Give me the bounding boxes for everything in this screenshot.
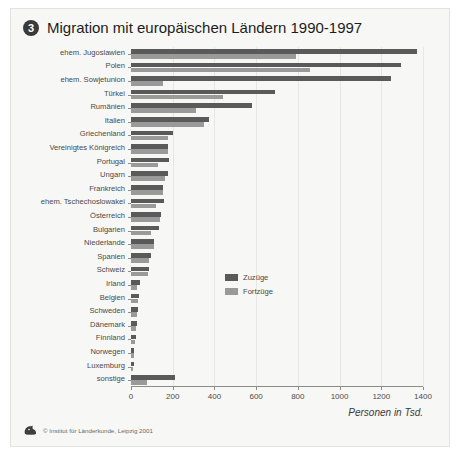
x-axis-title: Personen in Tsd. — [348, 407, 423, 418]
bar-zu — [131, 212, 161, 217]
category-label: Rumänien — [90, 103, 125, 112]
bar-row: Griechenland — [131, 129, 423, 143]
x-tick-mark — [173, 387, 174, 390]
chart-figure: 3 Migration mit europäischen Ländern 199… — [10, 8, 450, 447]
category-label: Ungarn — [100, 171, 125, 180]
category-label: Schweiz — [97, 266, 125, 275]
bar-fort — [131, 340, 135, 345]
x-tick-mark — [423, 387, 424, 390]
x-axis-line — [131, 386, 423, 387]
bar-fort — [131, 68, 310, 73]
bar-row: Spanien — [131, 251, 423, 265]
bar-zu — [131, 117, 209, 122]
bar-row: Portugal — [131, 156, 423, 170]
bar-row: Bulgarien — [131, 224, 423, 238]
x-tick-mark — [256, 387, 257, 390]
bar-fort — [131, 285, 137, 290]
bar-fort — [131, 272, 148, 277]
bar-zu — [131, 144, 168, 149]
bar-row: ehem. Jugoslawien — [131, 47, 423, 61]
category-label: Italien — [105, 117, 125, 126]
category-label: Niederlande — [84, 239, 125, 248]
bar-fort — [131, 163, 158, 168]
category-label: ehem. Sowjetunion — [60, 76, 125, 85]
chart-legend: Zuzüge Fortzüge — [225, 273, 273, 301]
category-label: sonstige — [97, 375, 125, 384]
x-tick-label: 0 — [129, 392, 133, 401]
bar-zu — [131, 103, 252, 108]
bar-row: Niederlande — [131, 237, 423, 251]
x-tick-mark — [381, 387, 382, 390]
bar-zu — [131, 362, 134, 367]
bar-zu — [131, 49, 417, 54]
x-tick-mark — [340, 387, 341, 390]
institute-logo-icon — [23, 424, 38, 437]
bar-zu — [131, 239, 154, 244]
bar-row: Italien — [131, 115, 423, 129]
bar-zu — [131, 375, 175, 380]
bar-zu — [131, 90, 275, 95]
bar-row: Finnland — [131, 333, 423, 347]
copyright-text: © Institut für Länderkunde, Leipzig 2001 — [43, 427, 153, 434]
bar-row: sonstige — [131, 373, 423, 387]
bar-fort — [131, 149, 168, 154]
category-label: Österreich — [90, 212, 125, 221]
category-label: Dänemark — [90, 321, 125, 330]
figure-number-badge: 3 — [23, 20, 39, 36]
bar-zu — [131, 76, 391, 81]
x-tick-label: 600 — [249, 392, 262, 401]
category-label: Türkei — [104, 90, 125, 99]
bar-row: Österreich — [131, 210, 423, 224]
category-label: Portugal — [97, 158, 125, 167]
bar-row: Belgien — [131, 292, 423, 306]
category-label: Bulgarien — [93, 226, 125, 235]
bar-row: Luxemburg — [131, 360, 423, 374]
x-tick-label: 1000 — [331, 392, 349, 401]
bar-zu — [131, 307, 138, 312]
category-label: Griechenland — [80, 130, 125, 139]
bar-zu — [131, 131, 173, 136]
x-tick-mark — [298, 387, 299, 390]
bar-fort — [131, 380, 147, 385]
bar-zu — [131, 294, 139, 299]
category-label: Irland — [106, 280, 125, 289]
bar-row: Norwegen — [131, 346, 423, 360]
legend-label-zuzuege: Zuzüge — [243, 273, 268, 282]
legend-swatch-fortzuege — [225, 288, 238, 295]
category-label: Luxemburg — [87, 362, 125, 371]
legend-label-fortzuege: Fortzüge — [243, 287, 273, 296]
bar-fort — [131, 231, 151, 236]
bar-row: Ungarn — [131, 169, 423, 183]
category-label: ehem. Jugoslawien — [60, 49, 125, 58]
x-tick-mark — [131, 387, 132, 390]
bar-fort — [131, 244, 154, 249]
bar-zu — [131, 185, 163, 190]
bar-fort — [131, 258, 149, 263]
bar-fort — [131, 299, 138, 304]
bar-fort — [131, 136, 168, 141]
x-tick-label: 800 — [291, 392, 304, 401]
bar-fort — [131, 312, 137, 317]
bar-zu — [131, 280, 140, 285]
bar-row: Rumänien — [131, 101, 423, 115]
plot-area: ehem. JugoslawienPolenehem. SowjetunionT… — [131, 47, 423, 387]
figure-footer: © Institut für Länderkunde, Leipzig 2001 — [23, 424, 153, 437]
x-tick-label: 200 — [166, 392, 179, 401]
bar-fort — [131, 54, 296, 59]
bar-zu — [131, 253, 151, 258]
bar-row: ehem. Tschechoslowakei — [131, 197, 423, 211]
x-tick-label: 1400 — [414, 392, 432, 401]
chart-header: 3 Migration mit europäischen Ländern 199… — [23, 19, 362, 36]
category-label: Norwegen — [90, 348, 125, 357]
bar-fort — [131, 217, 160, 222]
category-label: Schweden — [90, 307, 125, 316]
x-tick-label: 1200 — [372, 392, 390, 401]
category-label: Frankreich — [89, 185, 125, 194]
x-tick-mark — [214, 387, 215, 390]
bar-zu — [131, 171, 168, 176]
x-tick-label: 400 — [208, 392, 221, 401]
bar-fort — [131, 108, 196, 113]
bar-fort — [131, 176, 165, 181]
bar-zu — [131, 63, 401, 68]
bar-row: Frankreich — [131, 183, 423, 197]
